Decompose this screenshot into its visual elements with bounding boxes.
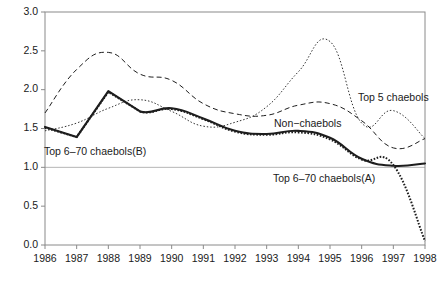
y-tick-label: 2.0: [23, 82, 38, 94]
series-line-top-5-chaebols: [45, 39, 425, 139]
series-annotations: Top 6–70 chaebols(B)Top 6–70 chaebols(A)…: [44, 91, 429, 184]
x-tick-label: 1994: [287, 252, 311, 264]
annotation-top-6-70-chaebols-b: Top 6–70 chaebols(B): [44, 145, 146, 157]
y-tick-label: 1.0: [23, 160, 38, 172]
x-tick-label: 1991: [192, 252, 216, 264]
x-tick-label: 1993: [255, 252, 279, 264]
x-tick-label: 1988: [97, 252, 121, 264]
data-series-lines: [45, 39, 425, 241]
series-line-top-6-70-chaebols-a: [45, 92, 425, 241]
x-tick-label: 1992: [223, 252, 247, 264]
plot-frame: [45, 12, 425, 245]
y-tick-label: 3.0: [23, 5, 38, 17]
y-tick-label: 1.5: [23, 121, 38, 133]
x-tick-label: 1990: [160, 252, 184, 264]
x-tick-label: 1986: [33, 252, 57, 264]
annotation-top-5-chaebols: Top 5 chaebols: [358, 91, 429, 103]
x-tick-label: 1987: [65, 252, 89, 264]
frame-rect: [45, 12, 425, 245]
x-tick-label: 1996: [350, 252, 374, 264]
x-tick-label: 1995: [318, 252, 342, 264]
x-tick-label: 1997: [382, 252, 406, 264]
annotation-top-6-70-chaebols-a: Top 6–70 chaebols(A): [273, 172, 375, 184]
x-axis-ticks: 1986198719881989199019911992199319941995…: [33, 245, 437, 264]
x-tick-label: 1989: [128, 252, 152, 264]
x-tick-label: 1998: [413, 252, 437, 264]
y-tick-label: 0.0: [23, 238, 38, 250]
line-chart: 0.00.51.01.52.02.53.0 198619871988198919…: [0, 0, 445, 281]
y-axis-ticks: 0.00.51.01.52.02.53.0: [23, 5, 45, 250]
y-tick-label: 0.5: [23, 199, 38, 211]
chart-canvas: 0.00.51.01.52.02.53.0 198619871988198919…: [0, 0, 445, 281]
annotation-non-chaebols: Non−chaebols: [274, 117, 341, 129]
y-tick-label: 2.5: [23, 44, 38, 56]
